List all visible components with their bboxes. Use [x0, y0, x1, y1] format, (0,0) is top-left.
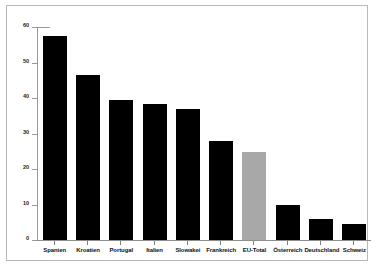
bar--sterreich: [276, 205, 300, 241]
x-tick-5: [220, 241, 221, 245]
x-tick-3: [154, 241, 155, 245]
bar-frankreich: [209, 141, 233, 240]
bar-slowakei: [176, 109, 200, 240]
x-label-frankreich: Frankreich: [205, 247, 238, 253]
bar-deutschland: [309, 219, 333, 240]
x-label-schweiz: Schweiz: [338, 247, 371, 253]
y-tick-label-10: 10: [23, 200, 29, 206]
y-tick-10: 10: [32, 205, 37, 206]
plot-area: 0102030405060: [37, 22, 371, 240]
x-label-deutschland: Deutschland: [304, 247, 337, 253]
bar-series: [38, 22, 371, 241]
x-label-eu-total: EU-Total: [238, 247, 271, 253]
y-tick-label-0: 0: [26, 235, 29, 241]
bar-fill: [143, 104, 167, 240]
y-tick-label-40: 40: [23, 93, 29, 99]
x-tick-6: [253, 241, 254, 245]
bar-fill: [209, 141, 233, 240]
x-tick-2: [120, 241, 121, 245]
bar-fill: [309, 219, 333, 240]
y-tick-label-50: 50: [23, 58, 29, 64]
y-tick-50: 50: [32, 63, 37, 64]
y-tick-60: 60: [32, 27, 37, 28]
y-tick-label-30: 30: [23, 129, 29, 135]
y-tick-label-20: 20: [23, 164, 29, 170]
x-label-slowakei: Slowakei: [171, 247, 204, 253]
x-tick-9: [353, 241, 354, 245]
y-tick-40: 40: [32, 98, 37, 99]
x-tick-8: [320, 241, 321, 245]
y-tick-30: 30: [32, 134, 37, 135]
chart-frame: 0102030405060 SpanienKroatienPortugalIta…: [6, 5, 368, 261]
bar-fill: [342, 224, 366, 240]
x-label-italien: Italien: [138, 247, 171, 253]
x-label-spanien: Spanien: [38, 247, 71, 253]
bar-italien: [143, 104, 167, 240]
x-label-kroatien: Kroatien: [71, 247, 104, 253]
bar-fill: [43, 36, 67, 240]
bar-portugal: [109, 100, 133, 240]
bar-fill: [176, 109, 200, 240]
x-axis-labels: SpanienKroatienPortugalItalienSlowakeiFr…: [38, 247, 371, 261]
x-tick-1: [87, 241, 88, 245]
y-tick-label-60: 60: [23, 22, 29, 28]
bar-fill: [242, 152, 266, 240]
bar-spanien: [43, 36, 67, 240]
bar-schweiz: [342, 224, 366, 240]
y-tick-0: 0: [32, 240, 37, 241]
x-label-portugal: Portugal: [105, 247, 138, 253]
x-label--sterreich: Österreich: [271, 247, 304, 253]
bar-kroatien: [76, 75, 100, 240]
x-tick-7: [287, 241, 288, 245]
y-tick-20: 20: [32, 169, 37, 170]
bar-fill: [276, 205, 300, 241]
bar-fill: [109, 100, 133, 240]
bar-eu-total: [242, 152, 266, 240]
bar-fill: [76, 75, 100, 240]
x-tick-4: [187, 241, 188, 245]
x-tick-0: [54, 241, 55, 245]
